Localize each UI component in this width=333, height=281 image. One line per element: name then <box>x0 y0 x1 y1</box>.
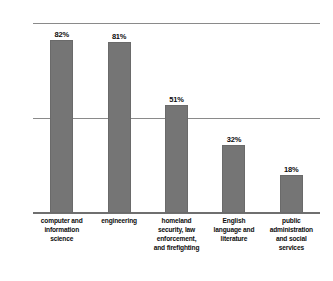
bar-homeland-security-law-enforcement-and-firefighting <box>165 105 188 213</box>
bar-value-label: 82% <box>54 31 68 39</box>
bars-layer: 82% 81% 51% 32% 18% <box>33 23 320 213</box>
bar-computer-and-information-science <box>50 40 73 213</box>
x-axis-label-line: and firefighting <box>149 243 204 252</box>
bar-chart: 90% 45% 0% 82% 81% 51% 32% 18% <box>0 0 333 281</box>
bar-slot: 18% <box>263 23 320 213</box>
x-axis-label-public-administration-and-social-services: public administration and social service… <box>263 216 320 252</box>
x-axis-label-line: English <box>206 216 261 225</box>
x-axis-label-line: computer and <box>34 216 89 225</box>
x-axis-label-line: administration <box>264 225 319 234</box>
x-axis-label-homeland-security-law-enforcement-and-firefighting: homeland security, law enforcement, and … <box>148 216 205 252</box>
x-axis-label-english-language-and-literature: English language and literature <box>205 216 262 243</box>
bar-value-label: 51% <box>169 96 183 104</box>
x-axis-label-line: public <box>264 216 319 225</box>
x-axis-label-line: literature <box>206 234 261 243</box>
x-axis-label-line: information <box>34 225 89 234</box>
bar-slot: 81% <box>90 23 147 213</box>
x-axis-labels: computer and information science enginee… <box>33 216 320 252</box>
bar-engineering <box>108 42 131 213</box>
x-axis-label-line: engineering <box>91 216 146 225</box>
x-axis-label-engineering: engineering <box>90 216 147 225</box>
bar-slot: 82% <box>33 23 90 213</box>
x-axis-label-line: and social <box>264 234 319 243</box>
bar-value-label: 81% <box>112 33 126 41</box>
bar-value-label: 18% <box>284 166 298 174</box>
x-axis-label-line: services <box>264 243 319 252</box>
x-axis-label-computer-and-information-science: computer and information science <box>33 216 90 243</box>
bar-slot: 51% <box>148 23 205 213</box>
x-axis-label-line: science <box>34 234 89 243</box>
bar-value-label: 32% <box>227 136 241 144</box>
bar-slot: 32% <box>205 23 262 213</box>
x-axis-label-line: enforcement, <box>149 234 204 243</box>
x-axis-label-line: homeland <box>149 216 204 225</box>
x-axis-label-line: security, law <box>149 225 204 234</box>
bar-public-administration-and-social-services <box>280 175 303 213</box>
bar-english-language-and-literature <box>222 145 245 213</box>
x-axis-label-line: language and <box>206 225 261 234</box>
